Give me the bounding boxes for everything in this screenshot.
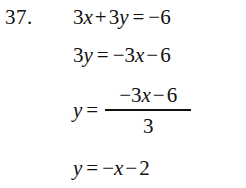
equals-sign: =: [93, 42, 113, 68]
constant-6: 6: [160, 42, 171, 68]
constant-2: 2: [139, 155, 150, 181]
coefficient-3-y: 3: [109, 4, 120, 30]
equation-line-2: 3y=−3x−6: [73, 42, 171, 68]
fraction-numerator: −3x−6: [115, 82, 181, 109]
equals-sign: =: [82, 155, 102, 181]
variable-y: y: [73, 97, 82, 123]
problem-number: 37.: [5, 4, 33, 30]
negative-coefficient-3: −3: [113, 42, 135, 68]
fraction: −3x−6 3: [105, 82, 191, 139]
plus-operator: +: [93, 4, 109, 30]
equals-sign: =: [82, 97, 102, 123]
variable-x: x: [135, 42, 144, 68]
equals-sign: =: [129, 4, 149, 30]
numerator-variable-x: x: [142, 83, 151, 107]
minus-operator: −: [123, 155, 139, 181]
fraction-denominator: 3: [139, 111, 158, 139]
numerator-negative-coefficient: −3: [119, 83, 141, 107]
equation-line-1: 3x+3y=−6: [73, 4, 171, 30]
numerator-minus-operator: −: [151, 83, 167, 107]
minus-operator: −: [144, 42, 160, 68]
numerator-constant: 6: [167, 83, 178, 107]
math-problem-worked-solution: 37. 3x+3y=−6 3y=−3x−6 y= −3x−6 3 y=−x−2: [0, 0, 246, 188]
coefficient-3: 3: [73, 42, 84, 68]
coefficient-3-x: 3: [73, 4, 84, 30]
equation-line-4: y=−x−2: [73, 155, 150, 181]
variable-x: x: [84, 4, 93, 30]
variable-y: y: [119, 4, 128, 30]
equation-line-3-fraction: y= −3x−6 3: [73, 82, 191, 139]
variable-y: y: [84, 42, 93, 68]
right-hand-side-value: −6: [148, 4, 170, 30]
variable-y: y: [73, 155, 82, 181]
variable-x: x: [114, 155, 123, 181]
negative-sign: −: [102, 155, 114, 181]
